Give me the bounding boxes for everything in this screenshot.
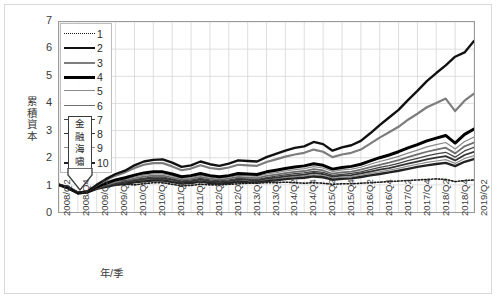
legend-item-label: 4	[97, 70, 103, 84]
legend-item-2[interactable]: 2	[61, 41, 113, 55]
y-axis-tick-label: 5	[30, 70, 52, 81]
chart-screenshot: 累 積 資 本 01234567 12345678910 金 融 海 嘯 200…	[0, 0, 498, 299]
x-axis-tick-label: 2017/Q4	[422, 179, 432, 216]
annotation-char-1: 融	[68, 131, 92, 144]
x-axis-tick-label: 2012/Q4	[233, 179, 243, 216]
legend-item-label: 10	[97, 156, 109, 170]
legend-item-label: 2	[97, 41, 103, 55]
x-axis-tick-label: 2012/Q2	[214, 179, 224, 216]
y-axis-tick-label: 1	[30, 180, 52, 191]
x-axis-tick-label: 2008/Q4	[81, 179, 91, 216]
x-axis-tick-label: 2011/Q2	[176, 180, 186, 216]
legend-item-5[interactable]: 5	[61, 84, 113, 98]
y-axis-tick-label: 2	[30, 152, 52, 163]
x-axis-tick-label: 2008/Q2	[62, 179, 72, 216]
x-axis-tick-label: 2015/Q2	[327, 179, 337, 216]
legend-item-label: 8	[97, 127, 103, 141]
legend-item-1[interactable]: 1	[61, 27, 113, 41]
legend-key-line	[64, 33, 95, 37]
y-axis-tick-label: 0	[30, 207, 52, 218]
annotation-char-0: 金	[68, 118, 92, 131]
x-axis-tick-label: 2018/Q4	[460, 179, 470, 216]
x-axis-tick-label: 2014/Q2	[289, 179, 299, 216]
y-axis-tick-label: 7	[30, 15, 52, 26]
x-axis-tick-label: 2013/Q2	[252, 179, 262, 216]
x-axis-tick-label: 2014/Q4	[308, 179, 318, 216]
x-axis-tick-label: 2015/Q4	[346, 179, 356, 216]
legend-item-label: 1	[97, 27, 103, 41]
legend-key-line	[64, 105, 95, 109]
x-axis-tick-label: 2016/Q2	[365, 179, 375, 216]
annotation-text: 金 融 海 嘯	[68, 118, 92, 168]
legend-key-line	[64, 47, 95, 52]
x-axis-tick-label: 2009/Q4	[119, 179, 129, 216]
x-axis-tick-label: 2019/Q2	[479, 179, 489, 216]
x-axis-tick-label: 2010/Q2	[138, 179, 148, 216]
y-axis-tick-label: 4	[30, 97, 52, 108]
x-axis-tick-label: 2009/Q2	[100, 179, 110, 216]
legend-item-label: 9	[97, 141, 103, 155]
x-axis-tick-label: 2013/Q4	[271, 179, 281, 216]
legend-item-3[interactable]: 3	[61, 56, 113, 70]
x-axis-title: 年/季	[100, 265, 123, 280]
x-axis-tick-label: 2010/Q4	[157, 179, 167, 216]
x-axis-tick-label: 2017/Q2	[403, 179, 413, 216]
legend-key-line	[64, 90, 95, 94]
legend-item-label: 3	[97, 56, 103, 70]
y-axis-tick-label: 3	[30, 125, 52, 136]
legend-item-label: 6	[97, 99, 103, 113]
x-axis-tick-label: 2018/Q2	[441, 179, 451, 216]
annotation-char-3: 嘯	[68, 156, 92, 169]
legend-item-label: 5	[97, 84, 103, 98]
y-axis-tick-label: 6	[30, 42, 52, 53]
legend-item-4[interactable]: 4	[61, 70, 113, 84]
x-axis-tick-label: 2011/Q4	[195, 180, 205, 216]
legend-key-line	[64, 76, 95, 82]
legend-item-label: 7	[97, 113, 103, 127]
legend-item-6[interactable]: 6	[61, 99, 113, 113]
legend-key-line	[64, 62, 95, 67]
x-axis-tick-label: 2016/Q4	[384, 179, 394, 216]
annotation-char-2: 海	[68, 143, 92, 156]
